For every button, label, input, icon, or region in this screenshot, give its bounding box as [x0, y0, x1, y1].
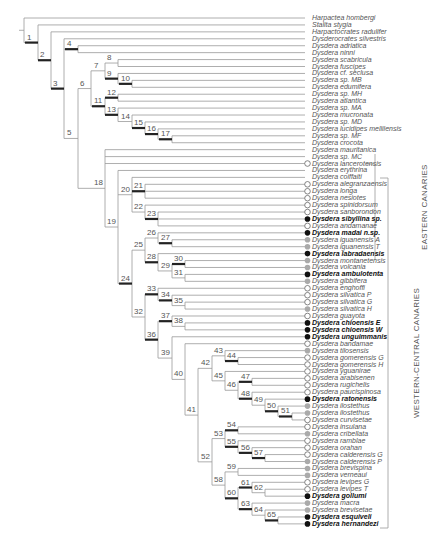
taxon-label: Dysdera insulana: [312, 423, 366, 430]
node-number: 53: [214, 430, 223, 438]
grey-circle-marker-icon: [305, 306, 311, 312]
grey-circle-marker-icon: [305, 500, 311, 506]
grey-circle-marker-icon: [305, 403, 311, 409]
black-circle-marker-icon: [305, 327, 311, 333]
white-circle-marker-icon: [305, 480, 311, 486]
node-number: 1: [27, 34, 31, 42]
taxon-label: Dysdera hernandezi: [312, 520, 379, 527]
white-circle-marker-icon: [305, 188, 311, 194]
black-circle-marker-icon: [305, 320, 311, 326]
node-number: 32: [134, 308, 143, 316]
white-circle-marker-icon: [305, 223, 311, 229]
node-number: 39: [161, 349, 170, 357]
black-circle-marker-icon: [305, 334, 311, 340]
node-number: 7: [94, 62, 98, 70]
node-number: 16: [147, 125, 156, 133]
node-number: 51: [281, 407, 290, 415]
node-number: 10: [121, 75, 130, 83]
node-number: 58: [214, 476, 223, 484]
grey-circle-marker-icon: [305, 431, 311, 437]
node-number: 47: [241, 373, 250, 381]
node-number: 29: [161, 262, 170, 270]
white-circle-marker-icon: [305, 292, 311, 298]
taxon-label: Dysdera andamanae: [312, 222, 377, 229]
grey-circle-marker-icon: [305, 258, 311, 264]
taxon-label: Dysdera sp. MF: [312, 132, 361, 139]
grey-circle-marker-icon: [305, 459, 311, 465]
white-circle-marker-icon: [305, 369, 311, 375]
white-circle-marker-icon: [305, 195, 311, 201]
taxon-label: Dysdera lancerotensis: [312, 160, 381, 167]
node-number: 45: [214, 372, 223, 380]
node-number: 4: [67, 40, 71, 48]
node-number: 62: [254, 484, 263, 492]
taxon-label: Dysdera gibbifera: [312, 277, 367, 284]
node-number: 25: [134, 241, 143, 249]
node-number: 48: [241, 390, 250, 398]
white-circle-marker-icon: [305, 202, 311, 208]
node-number: 44: [227, 352, 236, 360]
node-number: 26: [147, 229, 156, 237]
white-circle-marker-icon: [305, 299, 311, 305]
node-number: 18: [94, 179, 103, 187]
white-circle-marker-icon: [305, 376, 311, 382]
white-circle-marker-icon: [305, 452, 311, 458]
node-number: 43: [214, 347, 223, 355]
node-number: 30: [174, 255, 183, 263]
taxon-label: Dysdera coiffaiti: [312, 173, 362, 180]
white-circle-marker-icon: [305, 362, 311, 368]
white-circle-marker-icon: [305, 424, 311, 430]
node-number: 14: [121, 113, 130, 121]
taxon-label: Dysdera alegranzaensis: [312, 180, 387, 187]
white-circle-marker-icon: [305, 445, 311, 451]
grey-circle-marker-icon: [305, 237, 311, 243]
taxon-label: Dysdera levipes G: [312, 478, 369, 485]
node-number: 65: [267, 511, 276, 519]
node-number: 56: [241, 444, 250, 452]
taxon-label: Dysdera ilostethus: [312, 409, 370, 416]
node-number: 60: [227, 489, 236, 497]
node-number: 21: [134, 182, 143, 190]
node-number: 33: [147, 285, 156, 293]
taxon-label: Dysdera tilosensis: [312, 347, 369, 354]
taxon-label: Dysdera yguanirae: [312, 367, 371, 374]
node-number: 40: [174, 370, 183, 378]
white-circle-marker-icon: [305, 389, 311, 395]
white-circle-marker-icon: [305, 285, 311, 291]
taxon-label: Dysdera volcania: [312, 263, 366, 270]
node-number: 37: [161, 312, 170, 320]
taxon-label: Dysdera labradaensis: [312, 250, 384, 257]
grey-circle-marker-icon: [305, 473, 311, 479]
node-number: 27: [161, 234, 170, 242]
white-circle-marker-icon: [305, 355, 311, 361]
white-circle-marker-icon: [305, 182, 311, 188]
node-number: 46: [227, 381, 236, 389]
node-number: 2: [40, 51, 44, 59]
taxon-label: Dysdera rugichelis: [312, 381, 370, 388]
taxon-label: Dysdera sanborondon: [312, 208, 381, 215]
black-circle-marker-icon: [305, 514, 311, 520]
node-number: 24: [121, 275, 130, 283]
node-number: 31: [174, 269, 183, 277]
grey-circle-marker-icon: [305, 279, 311, 285]
black-circle-marker-icon: [305, 230, 311, 236]
node-number: 42: [201, 359, 210, 367]
black-circle-marker-icon: [305, 272, 311, 278]
node-number: 55: [227, 438, 236, 446]
taxon-label: Dysdera brevisetae: [312, 506, 372, 513]
node-number: 50: [267, 402, 276, 410]
grey-circle-marker-icon: [305, 348, 311, 354]
taxon-label: Dysdera unguimmanis: [312, 333, 387, 340]
grey-circle-marker-icon: [305, 507, 311, 513]
taxon-label: Dysdera sp. MB: [312, 76, 362, 83]
black-circle-marker-icon: [305, 396, 311, 402]
node-number: 36: [147, 331, 156, 339]
node-number: 17: [161, 130, 170, 138]
node-number: 57: [254, 449, 263, 457]
black-circle-marker-icon: [305, 493, 311, 499]
white-circle-marker-icon: [305, 161, 311, 167]
grey-circle-marker-icon: [305, 466, 311, 472]
node-number: 19: [107, 218, 116, 226]
node-number: 61: [241, 479, 250, 487]
grey-circle-marker-icon: [305, 244, 311, 250]
